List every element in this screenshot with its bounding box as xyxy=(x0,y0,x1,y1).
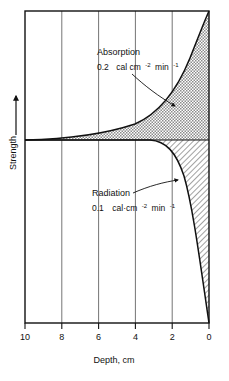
y-axis-title: Strength xyxy=(8,136,18,170)
figure-container: 10 8 6 4 2 0 Depth, cm Strength Absorpti… xyxy=(0,0,229,381)
x-tick-label-2: 2 xyxy=(170,332,175,342)
x-tick-label-4: 4 xyxy=(133,332,138,342)
chart-canvas: 10 8 6 4 2 0 Depth, cm Strength Absorpti… xyxy=(0,0,229,381)
x-tick-marks xyxy=(25,323,209,329)
absorption-label-title: Absorption xyxy=(97,47,140,57)
x-tick-label-0: 0 xyxy=(206,332,211,342)
x-tick-label-10: 10 xyxy=(20,332,30,342)
x-tick-label-6: 6 xyxy=(96,332,101,342)
radiation-label-title: Radiation xyxy=(92,188,130,198)
x-tick-label-8: 8 xyxy=(59,332,64,342)
x-axis-title: Depth, cm xyxy=(93,355,134,365)
